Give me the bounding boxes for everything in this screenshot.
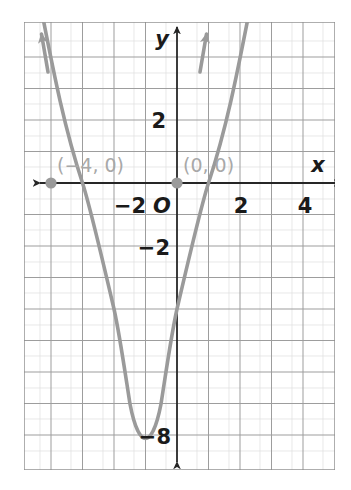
x-axis-label: x (310, 153, 326, 177)
bottom-mask (0, 470, 351, 490)
y-tick-label-neg8: −8 (139, 425, 171, 449)
point-marker-x-intercept-neg4[interactable] (45, 177, 56, 188)
origin-label: O (153, 194, 171, 218)
y-tick-label-2: 2 (151, 109, 166, 133)
coordinate-plane-svg: −2 2 4 2 −2 −8 O x y (−4, 0) (0, 0) (0, 0, 351, 490)
x-tick-label-4: 4 (298, 194, 313, 218)
top-mask (0, 0, 351, 22)
point-marker-origin[interactable] (171, 177, 182, 188)
graph-figure: −2 2 4 2 −2 −8 O x y (−4, 0) (0, 0) (0, 0, 351, 490)
right-mask (335, 0, 351, 490)
y-axis-label: y (155, 27, 170, 51)
point-label-neg4-0: (−4, 0) (57, 154, 124, 176)
x-tick-label-neg2: −2 (114, 194, 146, 218)
x-tick-label-2: 2 (234, 194, 249, 218)
y-tick-label-neg2: −2 (138, 236, 170, 260)
left-mask (0, 0, 24, 490)
point-label-0-0: (0, 0) (183, 154, 234, 176)
